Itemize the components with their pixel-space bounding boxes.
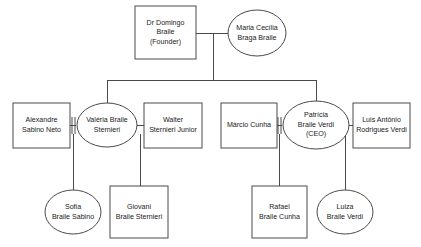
node-label-line: Alexandre bbox=[26, 116, 58, 124]
node-label-line: Valéria Braile bbox=[86, 116, 128, 124]
node-label-line: Sternieri Junior bbox=[149, 126, 197, 134]
node-giovani[interactable]: Giovani Braile Sternieri bbox=[110, 186, 168, 238]
genogram-svg: Dr Domingo Braile (Founder) Maria Cecíli… bbox=[0, 0, 421, 247]
node-label-line: (CEO) bbox=[306, 130, 326, 138]
node-label-line: Braile Cunha bbox=[259, 213, 300, 221]
node-label-line: Braile Sternieri bbox=[116, 213, 163, 221]
node-label-line: Braile Sabino bbox=[52, 213, 94, 221]
node-label-line: Luis Antônio bbox=[362, 116, 401, 124]
node-maria[interactable]: Maria Cecília Braga Braile bbox=[228, 10, 286, 56]
genogram-canvas: Dr Domingo Braile (Founder) Maria Cecíli… bbox=[0, 0, 421, 247]
node-rafael[interactable]: Rafael Braile Cunha bbox=[252, 186, 307, 238]
node-label-line: Giovani bbox=[127, 203, 151, 211]
node-luis[interactable]: Luis Antônio Rodrigues Verdi bbox=[353, 103, 410, 148]
node-label-line: Luiza bbox=[337, 203, 354, 211]
node-label-line: Braga Braile bbox=[237, 34, 276, 42]
node-label-line: Rodrigues Verdi bbox=[356, 126, 407, 134]
node-domingo[interactable]: Dr Domingo Braile (Founder) bbox=[135, 6, 196, 59]
node-marcio[interactable]: Márcio Cunha bbox=[221, 103, 277, 148]
node-label-line: Rafael bbox=[269, 203, 290, 211]
node-sofia[interactable]: Sofia Braile Sabino bbox=[45, 190, 101, 234]
node-walter[interactable]: Walter Sternieri Junior bbox=[144, 103, 202, 148]
node-label-line: Márcio Cunha bbox=[227, 121, 271, 129]
node-label-line: Maria Cecília bbox=[236, 24, 277, 32]
node-label-line: (Founder) bbox=[150, 38, 181, 46]
node-patricia[interactable]: Patrícia Braile Verdi (CEO) bbox=[283, 101, 349, 149]
node-luiza[interactable]: Luiza Braile Verdi bbox=[317, 190, 373, 234]
node-label-line: Braile Verdi bbox=[298, 121, 335, 129]
node-label-line: Braile bbox=[156, 28, 174, 36]
node-valeria[interactable]: Valéria Braile Sternieri bbox=[77, 103, 137, 147]
node-label-line: Patrícia bbox=[304, 111, 328, 119]
node-label-line: Sabino Neto bbox=[22, 126, 61, 134]
node-alexandre[interactable]: Alexandre Sabino Neto bbox=[13, 103, 70, 148]
node-label-line: Sternieri bbox=[94, 126, 121, 134]
node-label-line: Walter bbox=[163, 116, 184, 124]
node-label-line: Braile Verdi bbox=[327, 213, 364, 221]
node-label-line: Sofia bbox=[65, 203, 81, 211]
node-label-line: Dr Domingo bbox=[147, 19, 185, 27]
